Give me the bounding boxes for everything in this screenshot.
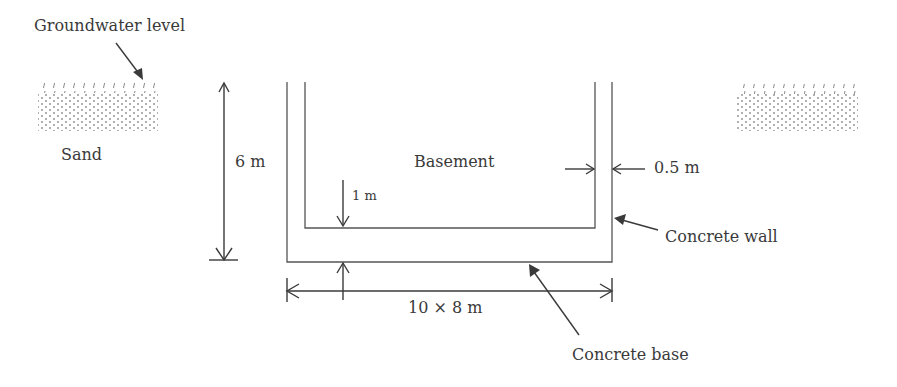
sand-left xyxy=(38,83,158,131)
basement-label: Basement xyxy=(414,152,495,171)
groundwater-arrow xyxy=(116,43,143,80)
footprint-label: 10 × 8 m xyxy=(408,298,482,317)
sand-label: Sand xyxy=(61,145,102,164)
concrete-wall-arrow xyxy=(614,214,658,230)
wall-thickness-label: 0.5 m xyxy=(654,158,700,177)
sand-right xyxy=(736,84,858,131)
concrete-wall-label: Concrete wall xyxy=(665,227,778,246)
groundwater-label: Groundwater level xyxy=(34,16,185,35)
height-dimension xyxy=(209,83,238,260)
wall-thickness-dimension xyxy=(565,164,645,174)
height-label: 6 m xyxy=(235,152,265,171)
concrete-base-label: Concrete base xyxy=(572,345,689,364)
base-thickness-dimension xyxy=(337,180,349,300)
basement-diagram: Groundwater level Sand 6 m Basement 0.5 … xyxy=(0,0,897,387)
basement-structure xyxy=(287,82,612,262)
concrete-base-arrow xyxy=(529,264,579,335)
base-thickness-label: 1 m xyxy=(352,188,377,203)
